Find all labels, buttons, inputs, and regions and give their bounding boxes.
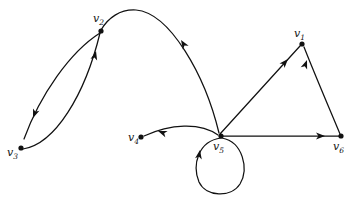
vertex-dot-layer — [18, 28, 343, 150]
vertex-label-subscript-v3: 3 — [13, 152, 18, 161]
edge-v5-to-v4 — [144, 126, 218, 136]
vertex-dot-v4 — [138, 134, 143, 139]
arrowhead-v5-to-v5 — [195, 149, 203, 159]
edge-v3-to-v2 — [23, 33, 100, 149]
arrowhead-layer — [30, 38, 325, 159]
vertex-dot-v6 — [338, 133, 343, 138]
vertex-label-v5: v5 — [213, 141, 224, 152]
vertex-label-v4: v4 — [128, 132, 139, 143]
vertex-label-v2: v2 — [93, 13, 104, 24]
vertex-label-subscript-v2: 2 — [99, 18, 104, 27]
vertex-label-subscript-v1: 1 — [300, 33, 305, 42]
graph-figure: v1v2v3v4v5v6 — [0, 0, 354, 201]
vertex-label-subscript-v5: 5 — [219, 146, 224, 155]
vertex-label-subscript-v6: 6 — [339, 146, 344, 155]
vertex-dot-v2 — [98, 28, 103, 33]
vertex-dot-v5 — [218, 133, 223, 138]
arrowhead-v2-to-v3 — [30, 108, 40, 119]
vertex-label-v1: v1 — [294, 28, 305, 39]
edge-v6-to-v1 — [304, 47, 340, 134]
edge-v5-to-v2 — [101, 10, 219, 133]
vertex-label-subscript-v4: 4 — [134, 137, 139, 146]
vertex-label-v3: v3 — [7, 147, 18, 158]
vertex-label-v6: v6 — [333, 141, 344, 152]
edge-v5-to-v1 — [220, 46, 300, 134]
vertex-dot-v3 — [18, 145, 23, 150]
edge-layer — [23, 10, 340, 194]
edge-v2-to-v3 — [24, 33, 100, 139]
